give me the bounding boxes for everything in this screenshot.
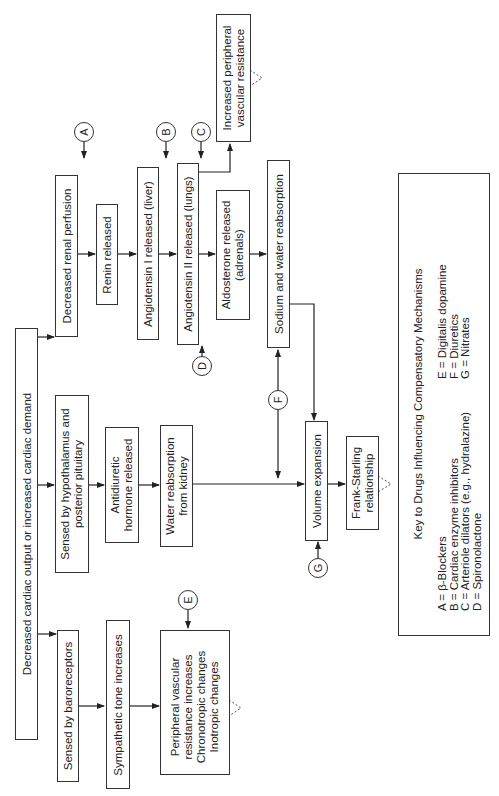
sympathetic-box: Sympathetic tone increases xyxy=(106,620,130,789)
peripheral-resistance-label: Increased peripheral vascular resistance xyxy=(221,26,247,131)
angiotensin2-label: Angiotensin II released (lungs) xyxy=(182,176,195,331)
peripheral-resistance-box: Increased peripheral vascular resistance xyxy=(216,14,251,142)
angiotensin1-box: Angiotensin I released (liver) xyxy=(137,167,159,340)
water-reabsorption-label: Water reabsorption from kidney xyxy=(164,437,190,534)
baroreceptors-box: Sensed by baroreceptors xyxy=(57,630,79,782)
drug-key-right: E = Digitalis dopamine F = Diuretics G =… xyxy=(437,264,472,379)
drug-marker-d: D xyxy=(192,356,212,376)
hypothalamus-box: Sensed by hypothalamus and posterior pit… xyxy=(55,395,89,573)
angiotensin1-label: Angiotensin I released (liver) xyxy=(142,181,155,327)
drug-marker-f: F xyxy=(268,390,288,410)
water-reabsorption-box: Water reabsorption from kidney xyxy=(160,425,193,547)
renin-box: Renin released xyxy=(96,204,118,305)
drug-key-left: A = β-Blockers B = Cardiac enzyme inhibi… xyxy=(437,412,483,611)
baroreceptors-label: Sensed by baroreceptors xyxy=(62,642,75,771)
aldosterone-label: Aldosterone released (adrenals) xyxy=(220,201,246,310)
key-row-d: D = Spironolactone xyxy=(472,412,484,611)
drug-marker-b: B xyxy=(156,122,176,142)
renal-perfusion-box: Decreased renal perfusion xyxy=(55,175,78,337)
start-box: Decreased cardiac output or increased ca… xyxy=(15,328,38,740)
effects-box: Peripheral vascular resistance increases… xyxy=(160,630,230,775)
adh-box: Antidiuretic hormone released xyxy=(105,427,139,543)
volume-expansion-label: Volume expansion xyxy=(310,434,323,528)
adh-label: Antidiuretic hormone released xyxy=(109,439,135,532)
drug-marker-e: E xyxy=(178,590,198,610)
volume-expansion-box: Volume expansion xyxy=(305,421,328,541)
drug-marker-c: C xyxy=(191,122,211,142)
hypothalamus-label: Sensed by hypothalamus and posterior pit… xyxy=(59,408,85,560)
start-label: Decreased cardiac output or increased ca… xyxy=(20,393,33,676)
sympathetic-label: Sympathetic tone increases xyxy=(112,634,125,775)
aldosterone-box: Aldosterone released (adrenals) xyxy=(216,190,250,320)
drug-key-title: Key to Drugs Influencing Compensatory Me… xyxy=(412,268,424,539)
drug-marker-a: A xyxy=(74,122,94,142)
angiotensin2-box: Angiotensin II released (lungs) xyxy=(177,163,199,345)
frank-starling-label: Frank-Starling relationship xyxy=(350,447,376,519)
frank-starling-box: Frank-Starling relationship xyxy=(346,436,379,530)
effects-label: Peripheral vascular resistance increases… xyxy=(169,650,221,763)
sodium-water-label: Sodium and water reabsorption xyxy=(272,174,285,334)
key-row-g: G = Nitrates xyxy=(460,264,472,379)
renal-perfusion-label: Decreased renal perfusion xyxy=(60,189,73,324)
renin-label: Renin released xyxy=(101,216,114,293)
drug-marker-g: G xyxy=(308,558,328,578)
sodium-water-box: Sodium and water reabsorption xyxy=(267,160,290,348)
